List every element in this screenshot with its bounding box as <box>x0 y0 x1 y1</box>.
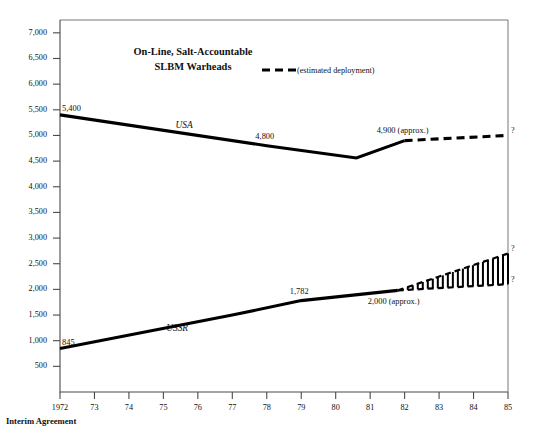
annotation-question-mark: ? <box>511 275 515 284</box>
series-inline-label-ussr: USSR <box>166 323 188 333</box>
x-tick-label: 78 <box>263 403 271 412</box>
annotation-value-label: 1,782 <box>290 287 309 296</box>
chart-title-line-1: On-Line, Salt-Accountable <box>134 46 253 57</box>
y-tick-label: 2,500 <box>29 259 47 268</box>
slbm-warheads-line-chart: 5001,0001,5002,0002,5003,0003,5004,0004,… <box>0 0 533 444</box>
legend: (estimated deployment) <box>262 66 375 75</box>
footnote-interim-agreement: Interim Agreement <box>6 416 76 426</box>
x-tick-label: 82 <box>401 403 409 412</box>
x-tick-label: 74 <box>125 403 133 412</box>
y-tick-label: 7,000 <box>29 28 47 37</box>
chart-title-line-2: SLBM Warheads <box>155 61 232 72</box>
annotation-value-label: 4,900 (approx.) <box>377 126 429 135</box>
annotation-value-label: 2,000 (approx.) <box>368 297 420 306</box>
ussr-uncertainty-fan <box>398 253 508 290</box>
x-tick-label: 77 <box>228 403 236 412</box>
y-tick-label: 6,000 <box>29 79 47 88</box>
x-tick-label: 83 <box>435 403 443 412</box>
y-tick-label: 5,000 <box>29 130 47 139</box>
y-axis: 5001,0001,5002,0002,5003,0003,5004,0004,… <box>29 28 60 371</box>
x-tick-label: 85 <box>504 403 512 412</box>
x-axis: 197273747576777879808182838485 <box>52 392 512 412</box>
y-tick-label: 1,000 <box>29 336 47 345</box>
series-path-usa-estimated <box>405 135 508 140</box>
y-tick-label: 2,000 <box>29 284 47 293</box>
y-tick-label: 4,500 <box>29 156 47 165</box>
y-tick-label: 4,000 <box>29 182 47 191</box>
y-tick-label: 3,000 <box>29 233 47 242</box>
annotation-question-mark: ? <box>511 126 515 135</box>
y-tick-label: 6,500 <box>29 53 47 62</box>
data-series <box>60 115 508 349</box>
chart-title: On-Line, Salt-Accountable SLBM Warheads <box>134 46 253 72</box>
annotation-value-label: 845 <box>62 338 75 347</box>
x-tick-label: 76 <box>194 403 202 412</box>
x-tick-label: 73 <box>90 403 98 412</box>
x-tick-label: 80 <box>332 403 340 412</box>
y-tick-label: 1,500 <box>29 310 47 319</box>
x-tick-label: 84 <box>469 403 477 412</box>
annotation-value-label: 4,800 <box>255 132 274 141</box>
x-tick-label: 81 <box>366 403 374 412</box>
annotation-question-mark: ? <box>511 244 515 253</box>
legend-label-estimated-deployment: (estimated deployment) <box>297 66 375 75</box>
annotation-value-label: 5,400 <box>62 104 81 113</box>
y-tick-label: 5,500 <box>29 105 47 114</box>
series-path-ussr <box>60 290 398 348</box>
y-tick-label: 500 <box>35 361 47 370</box>
y-tick-label: 3,500 <box>29 207 47 216</box>
series-inline-label-usa: USA <box>175 120 192 130</box>
chart-container: 5001,0001,5002,0002,5003,0003,5004,0004,… <box>0 0 533 444</box>
x-tick-label: 75 <box>159 403 167 412</box>
data-annotations: 5,4004,8004,900 (approx.)8451,7822,000 (… <box>62 104 515 347</box>
x-tick-label: 79 <box>297 403 305 412</box>
series-path-usa <box>60 115 405 158</box>
x-tick-label: 1972 <box>52 403 68 412</box>
